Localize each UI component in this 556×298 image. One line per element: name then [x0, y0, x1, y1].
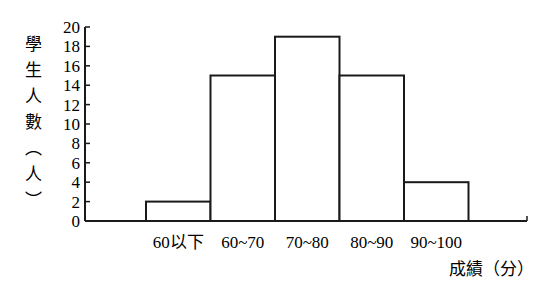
y-title-char: 生	[25, 60, 42, 80]
bar-0	[146, 202, 211, 221]
y-title-char: 數	[25, 112, 42, 132]
y-tick-label: 6	[72, 154, 81, 173]
x-category-label: 60以下	[153, 233, 204, 252]
bar-4	[404, 182, 469, 221]
y-title-char: 人	[25, 164, 42, 184]
y-tick-label: 8	[72, 134, 81, 153]
y-tick-label: 16	[63, 57, 80, 76]
y-tick-label: 10	[63, 115, 80, 134]
bar-2	[275, 37, 340, 221]
y-tick-label: 0	[72, 212, 81, 231]
x-category-label: 80~90	[350, 233, 393, 252]
y-tick-label: 20	[63, 18, 80, 37]
bar-1	[211, 76, 276, 222]
y-title-char: ︶	[25, 190, 42, 210]
x-axis-category-labels: 60以下60~7070~8080~9090~100	[153, 233, 462, 252]
y-tick-label: 12	[63, 96, 80, 115]
y-tick-label: 4	[72, 173, 81, 192]
histogram-chart: 學生人數︵人︶ 02468101214161820 60以下60~7070~80…	[0, 0, 556, 298]
y-title-char: 人	[25, 86, 42, 106]
bars	[146, 37, 469, 221]
y-tick-label: 2	[72, 193, 81, 212]
y-tick-label: 14	[63, 76, 81, 95]
x-category-label: 90~100	[410, 233, 462, 252]
y-axis-title: 學生人數︵人︶	[25, 34, 42, 210]
bar-3	[340, 76, 405, 222]
x-axis-title: 成績（分）	[449, 259, 534, 279]
x-category-label: 60~70	[221, 233, 264, 252]
y-tick-label: 18	[63, 37, 80, 56]
y-title-char: 學	[25, 34, 42, 54]
x-category-label: 70~80	[286, 233, 329, 252]
y-title-char: ︵	[25, 138, 42, 158]
